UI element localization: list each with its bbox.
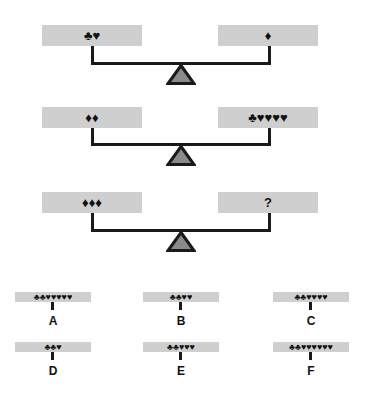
option-stem bbox=[51, 302, 54, 310]
right-pan-symbols: ? bbox=[264, 195, 272, 210]
fulcrum-triangle-icon bbox=[166, 145, 196, 166]
option-b-box[interactable]: ♣♣♥♥ bbox=[143, 292, 219, 302]
left-pan-symbols: ♦♦ bbox=[85, 110, 98, 125]
left-pan: ♦♦ bbox=[42, 107, 142, 128]
option-d-box[interactable]: ♣♣♥ bbox=[15, 342, 91, 352]
right-pan: ? bbox=[218, 192, 318, 213]
option-stem bbox=[51, 352, 54, 360]
right-pan-symbols: ♦ bbox=[265, 28, 272, 43]
option-symbols: ♣♣♥♥♥ bbox=[167, 342, 195, 352]
option-label: C bbox=[301, 314, 321, 328]
option-e-box[interactable]: ♣♣♥♥♥ bbox=[143, 342, 219, 352]
fulcrum-triangle-icon bbox=[166, 231, 196, 252]
option-label: D bbox=[43, 364, 63, 378]
option-f-box[interactable]: ♣♣♥♥♥♥♥♥ bbox=[273, 342, 349, 352]
option-symbols: ♣♣♥♥♥♥♥ bbox=[34, 292, 73, 302]
right-pan: ♦ bbox=[218, 25, 318, 46]
fulcrum-triangle-icon bbox=[166, 64, 196, 85]
option-a-box[interactable]: ♣♣♥♥♥♥♥ bbox=[15, 292, 91, 302]
option-label: B bbox=[171, 314, 191, 328]
option-symbols: ♣♣♥♥♥♥♥♥ bbox=[289, 342, 333, 352]
left-pan-symbols: ♦♦♦ bbox=[82, 195, 102, 210]
left-pan: ♣♥ bbox=[42, 25, 142, 46]
option-stem bbox=[179, 352, 182, 360]
option-c-box[interactable]: ♣♣♥♥♥♥ bbox=[273, 292, 349, 302]
option-stem bbox=[309, 352, 312, 360]
option-label: A bbox=[43, 314, 63, 328]
option-label: E bbox=[171, 364, 191, 378]
option-stem bbox=[309, 302, 312, 310]
option-symbols: ♣♣♥♥ bbox=[170, 292, 193, 302]
right-pan: ♣♥♥♥♥ bbox=[218, 107, 318, 128]
left-pan-symbols: ♣♥ bbox=[84, 28, 100, 43]
option-stem bbox=[179, 302, 182, 310]
option-symbols: ♣♣♥ bbox=[44, 342, 61, 352]
right-pan-symbols: ♣♥♥♥♥ bbox=[248, 110, 287, 125]
option-symbols: ♣♣♥♥♥♥ bbox=[294, 292, 327, 302]
option-label: F bbox=[301, 364, 321, 378]
left-pan: ♦♦♦ bbox=[42, 192, 142, 213]
